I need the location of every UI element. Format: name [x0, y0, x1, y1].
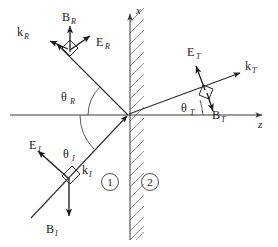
k-i-symbol: k [82, 163, 88, 177]
z-axis-label: z [257, 118, 263, 130]
e-r-subscript: R [104, 42, 110, 51]
region-marker-2: 2 [142, 174, 159, 191]
e-i-symbol: E [29, 138, 36, 152]
theta-r-subscript: R [69, 97, 75, 106]
angle-arc-theta-i [80, 115, 94, 149]
theta-t-subscript: T [190, 108, 195, 117]
ray-diagram-canvas: x z θ R θ I [0, 0, 278, 247]
incident-e-label: E I [29, 138, 41, 154]
interface-hatching [130, 8, 144, 240]
transmitted-k-label: k T [245, 59, 257, 75]
k-t-symbol: k [245, 59, 251, 73]
angle-arc-theta-r [88, 87, 100, 115]
x-axis-label: x [135, 4, 141, 16]
theta-i-symbol: θ [63, 147, 69, 161]
b-t-symbol: B [212, 108, 220, 122]
b-t-subscript: T [221, 115, 226, 124]
reflected-ray [57, 44, 128, 115]
k-i-subscript: I [88, 170, 92, 179]
incident-b-label: B I [46, 222, 58, 238]
e-i-subscript: I [37, 145, 41, 154]
e-t-subscript: T [196, 52, 201, 61]
b-r-subscript: R [70, 17, 76, 26]
incident-k-label: k I [82, 163, 92, 179]
reflected-k-label: k R [17, 25, 29, 41]
k-r-symbol: k [17, 25, 23, 39]
k-r-subscript: R [23, 32, 29, 41]
region-marker-1: 1 [102, 174, 119, 191]
k-t-subscript: T [252, 66, 257, 75]
theta-t-symbol: θ [181, 101, 187, 115]
transmitted-e-label: E T [187, 45, 201, 61]
angle-arc-theta-t [200, 100, 203, 115]
theta-i-label: θ I [63, 147, 75, 163]
reflected-e-label: E R [96, 35, 110, 51]
theta-r-label: θ R [61, 90, 75, 106]
e-t-symbol: E [187, 45, 194, 59]
theta-r-symbol: θ [61, 90, 67, 104]
incident-ray [31, 116, 127, 218]
reflected-b-label: B R [62, 10, 76, 26]
e-r-symbol: E [96, 35, 103, 49]
reflected-field-box [50, 26, 90, 56]
b-r-symbol: B [62, 10, 70, 24]
region-2-label: 2 [147, 176, 153, 188]
theta-i-subscript: I [71, 154, 75, 163]
transmitted-b-label: B T [212, 108, 226, 124]
physics-diagram-figure: x z θ R θ I [0, 0, 278, 247]
b-i-symbol: B [46, 222, 54, 236]
b-i-subscript: I [54, 229, 58, 238]
region-1-label: 1 [107, 176, 113, 188]
